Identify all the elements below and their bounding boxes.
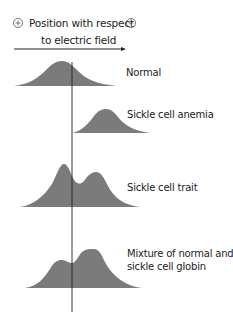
electrophoresis-diagram [0,0,233,325]
normal-peak [14,61,117,86]
label-mixture-line2: sickle cell globin [127,260,206,273]
label-sickle-cell-anemia: Sickle cell anemia [127,108,214,121]
label-normal: Normal [126,66,161,79]
label-mixture-line1: Mixture of normal and [127,247,233,260]
label-sickle-cell-trait: Sickle cell trait [127,181,197,194]
sickle-cell-trait-peak [20,164,140,207]
axis-title-line1: Position with respect [29,16,134,30]
positive-electrode-icon [14,19,23,28]
axis-title-line2: to electric field [41,33,116,47]
field-direction-arrow [14,47,126,51]
mixture-peak [25,249,142,288]
